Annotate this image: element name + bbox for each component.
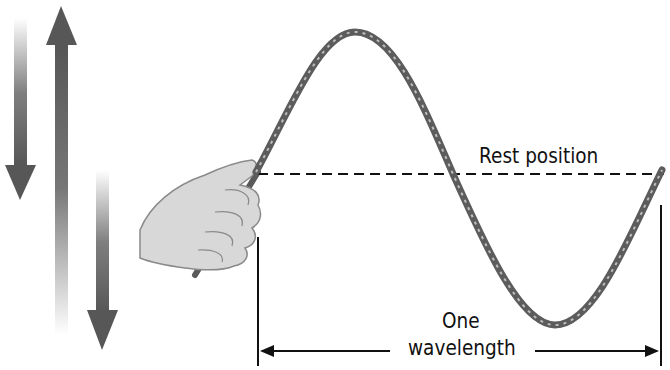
wavelength-label-line2: wavelength — [408, 338, 516, 359]
motion-arrow-down-right — [87, 170, 118, 350]
motion-arrow-up — [46, 6, 77, 335]
motion-arrow-down-left — [5, 18, 36, 200]
wave-diagram — [0, 0, 670, 370]
hand-icon — [140, 160, 260, 270]
rope-wave — [256, 32, 662, 325]
rest-position-label: Rest position — [479, 146, 598, 167]
wavelength-label-line1: One — [442, 311, 480, 332]
